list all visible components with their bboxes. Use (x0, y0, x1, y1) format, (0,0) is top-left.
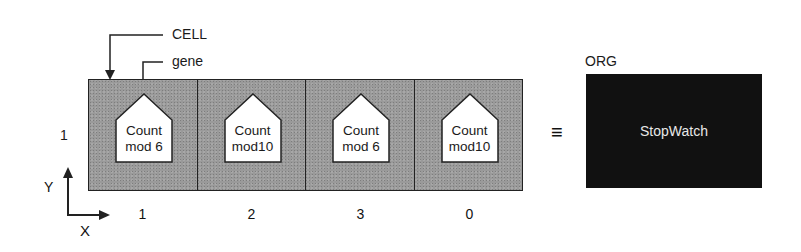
cell: Countmod 6 (89, 80, 198, 190)
cell: Countmod10 (415, 80, 523, 190)
gene: Countmod 6 (114, 93, 174, 163)
cell: Countmod10 (198, 80, 307, 190)
column-label: 3 (306, 206, 415, 222)
cell-grid: Countmod 6 Countmod10 Countmod 6 Countmo… (88, 79, 523, 191)
organism-name: StopWatch (640, 123, 708, 139)
cell: Countmod 6 (306, 80, 415, 190)
gene-line1: Count (114, 123, 174, 139)
organism-label: ORG (585, 54, 617, 68)
y-axis-label: Y (44, 179, 53, 195)
organism-box: StopWatch (586, 74, 762, 188)
x-axis-label: X (80, 222, 90, 239)
gene-line2: mod10 (440, 139, 500, 155)
column-label: 1 (88, 206, 197, 222)
equivalence-symbol: ≡ (551, 122, 563, 142)
gene: Countmod10 (440, 93, 500, 163)
cell-callout-label: CELL (172, 27, 207, 41)
gene-callout-label: gene (172, 54, 203, 68)
gene-line1: Count (331, 123, 391, 139)
gene-line2: mod 6 (114, 139, 174, 155)
gene-line2: mod10 (223, 139, 283, 155)
gene-line1: Count (223, 123, 283, 139)
row-label: 1 (60, 128, 68, 142)
gene: Countmod10 (223, 93, 283, 163)
column-label: 2 (197, 206, 306, 222)
gene-line2: mod 6 (331, 139, 391, 155)
column-label: 0 (415, 206, 524, 222)
gene-line1: Count (440, 123, 500, 139)
gene: Countmod 6 (331, 93, 391, 163)
